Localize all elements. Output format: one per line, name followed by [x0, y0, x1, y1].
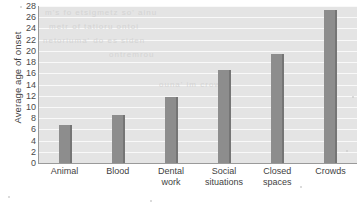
bar-slot	[145, 6, 198, 163]
scan-speck	[352, 96, 354, 98]
x-tick-label: Dentalwork	[144, 166, 197, 187]
y-tick-label: 12	[26, 91, 36, 100]
x-tick-label-line: Closed	[251, 166, 304, 177]
bar-slot	[39, 6, 92, 163]
x-tick-label-line: Social	[198, 166, 251, 177]
y-tick-label: 4	[31, 136, 36, 145]
scan-speck	[20, 6, 22, 8]
x-tick-label-line: Dental	[144, 166, 197, 177]
y-tick-label: 0	[31, 159, 36, 168]
bar	[324, 10, 337, 163]
x-tick-label: Closedspaces	[251, 166, 304, 187]
scan-speck	[346, 150, 348, 152]
x-axis-tick-labels: AnimalBloodDentalworkSocialsituationsClo…	[38, 166, 357, 187]
y-tick-label: 14	[26, 80, 36, 89]
x-tick-label-line: work	[144, 177, 197, 188]
x-tick-label: Socialsituations	[198, 166, 251, 187]
y-tick-label: 28	[26, 2, 36, 11]
x-tick-label-line: situations	[198, 177, 251, 188]
scan-speck	[8, 196, 10, 198]
bar-slot	[304, 6, 357, 163]
x-tick-label: Blood	[91, 166, 144, 187]
y-tick-label: 16	[26, 69, 36, 78]
bar-slot	[198, 6, 251, 163]
x-tick-label-line: spaces	[251, 177, 304, 188]
bar-slot	[92, 6, 145, 163]
bar	[165, 97, 178, 163]
bar-series	[39, 6, 357, 163]
bar	[271, 54, 284, 163]
bar	[59, 125, 72, 163]
y-tick-label: 24	[26, 24, 36, 33]
bar	[112, 115, 125, 163]
y-tick-label: 8	[31, 114, 36, 123]
y-tick-label: 6	[31, 125, 36, 134]
bar-slot	[251, 6, 304, 163]
x-tick-label-line: Blood	[91, 166, 144, 177]
y-tick-label: 20	[26, 46, 36, 55]
y-tick-label: 18	[26, 58, 36, 67]
scan-speck	[150, 200, 152, 202]
x-tick-label: Animal	[38, 166, 91, 187]
bar-chart: Average age of onset 0246810121416182022…	[0, 0, 357, 205]
bar	[218, 70, 231, 163]
x-tick-label-line: Crowds	[304, 166, 357, 177]
x-tick-label: Crowds	[304, 166, 357, 187]
plot-area: m's fo etsigmetz so' ainumetr of tatioru…	[38, 6, 357, 164]
y-tick-label: 22	[26, 35, 36, 44]
x-tick-label-line: Animal	[38, 166, 91, 177]
y-tick-label: 26	[26, 13, 36, 22]
y-tick-label: 10	[26, 102, 36, 111]
y-axis-tick-labels: 0246810121416182022242628	[16, 6, 36, 163]
scan-speck	[300, 186, 302, 188]
y-tick-label: 2	[31, 147, 36, 156]
